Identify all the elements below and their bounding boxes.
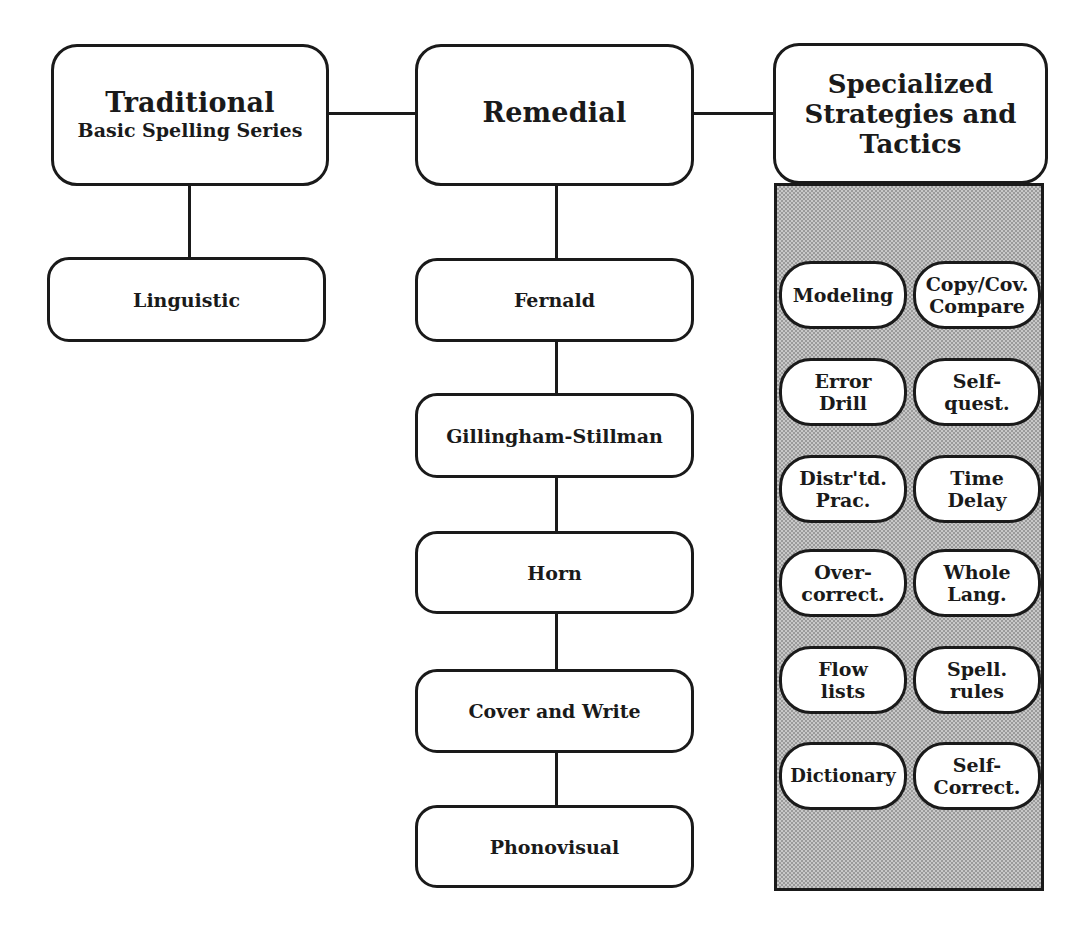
- node-traditional: Traditional Basic Spelling Series: [51, 44, 329, 186]
- node-specialized-line-2: Strategies and: [804, 99, 1016, 129]
- tactic-distributed-practice-line-2: Prac.: [816, 489, 871, 511]
- tactic-self-questioning: Self- quest.: [913, 358, 1041, 426]
- tactic-copy-cover-compare-line-2: Compare: [929, 295, 1025, 317]
- connector-fernald-gillingham: [555, 341, 558, 394]
- tactic-overcorrection-line-1: Over-: [814, 561, 872, 583]
- tactic-time-delay: Time Delay: [913, 455, 1041, 523]
- tactic-self-correction-line-1: Self-: [953, 754, 1001, 776]
- tactic-whole-language-line-2: Lang.: [947, 583, 1006, 605]
- tactic-distributed-practice-line-1: Distr'td.: [799, 467, 887, 489]
- node-remedial-title: Remedial: [483, 98, 627, 128]
- tactic-copy-cover-compare-line-1: Copy/Cov.: [926, 273, 1029, 295]
- connector-remedial-fernald: [555, 185, 558, 259]
- node-traditional-title: Traditional: [105, 88, 274, 118]
- tactic-error-drill-line-1: Error: [814, 370, 871, 392]
- tactic-time-delay-line-1: Time: [950, 467, 1004, 489]
- tactic-distributed-practice: Distr'td. Prac.: [779, 455, 907, 523]
- tactic-copy-cover-compare: Copy/Cov. Compare: [913, 261, 1041, 329]
- tactic-self-questioning-line-2: quest.: [944, 392, 1009, 414]
- tactic-self-correction-line-2: Correct.: [934, 776, 1021, 798]
- node-horn: Horn: [415, 531, 694, 614]
- connector-gillingham-horn: [555, 477, 558, 532]
- node-fernald: Fernald: [415, 258, 694, 342]
- tactic-self-questioning-line-1: Self-: [953, 370, 1001, 392]
- tactic-spelling-rules: Spell. rules: [913, 646, 1041, 714]
- node-cover-and-write-label: Cover and Write: [468, 699, 640, 723]
- tactic-whole-language: Whole Lang.: [913, 549, 1041, 617]
- connector-traditional-linguistic: [188, 185, 191, 258]
- node-remedial: Remedial: [415, 44, 694, 186]
- tactic-self-correction: Self- Correct.: [913, 742, 1041, 810]
- connector-horn-cover: [555, 613, 558, 670]
- node-specialized-line-3: Tactics: [860, 129, 962, 159]
- tactic-overcorrection: Over- correct.: [779, 549, 907, 617]
- node-cover-and-write: Cover and Write: [415, 669, 694, 753]
- node-specialized: Specialized Strategies and Tactics: [773, 43, 1048, 184]
- node-gillingham-stillman-label: Gillingham-Stillman: [446, 424, 663, 448]
- connector-traditional-remedial: [328, 112, 417, 115]
- tactic-flow-lists-line-2: lists: [821, 680, 866, 702]
- tactic-modeling-line-1: Modeling: [793, 284, 894, 306]
- node-phonovisual: Phonovisual: [415, 805, 694, 888]
- tactic-flow-lists-line-1: Flow: [818, 658, 868, 680]
- tactic-flow-lists: Flow lists: [779, 646, 907, 714]
- tactic-modeling: Modeling: [779, 261, 907, 329]
- node-linguistic: Linguistic: [47, 257, 326, 342]
- tactic-error-drill: Error Drill: [779, 358, 907, 426]
- node-horn-label: Horn: [527, 561, 581, 585]
- tactic-spelling-rules-line-1: Spell.: [947, 658, 1007, 680]
- tactic-spelling-rules-line-2: rules: [950, 680, 1004, 702]
- tactic-whole-language-line-1: Whole: [943, 561, 1010, 583]
- tactic-error-drill-line-2: Drill: [819, 392, 867, 414]
- node-phonovisual-label: Phonovisual: [490, 835, 620, 859]
- tactic-dictionary-line-1: Dictionary: [790, 765, 895, 787]
- node-fernald-label: Fernald: [514, 288, 595, 312]
- tactic-time-delay-line-2: Delay: [947, 489, 1006, 511]
- node-gillingham-stillman: Gillingham-Stillman: [415, 393, 694, 478]
- node-traditional-subtitle: Basic Spelling Series: [78, 118, 303, 142]
- node-specialized-line-1: Specialized: [828, 69, 993, 99]
- tactic-overcorrection-line-2: correct.: [801, 583, 884, 605]
- node-linguistic-label: Linguistic: [133, 288, 240, 312]
- connector-cover-phonovisual: [555, 752, 558, 806]
- tactic-dictionary: Dictionary: [779, 742, 907, 810]
- connector-remedial-specialized: [693, 112, 775, 115]
